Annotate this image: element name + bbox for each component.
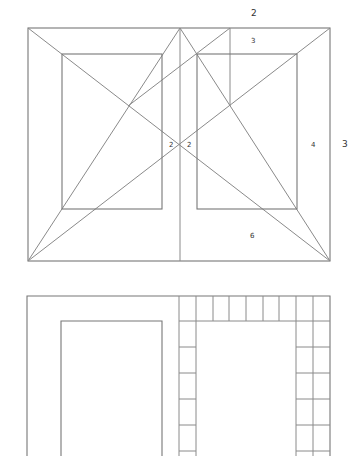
left-text-block-bottom: [61, 321, 162, 456]
label-bottom-margin-6: 6: [250, 233, 254, 240]
label-inner-margin-right: 2: [187, 142, 191, 149]
construction-cross-line: [128, 28, 230, 106]
left-page-diagonal: [28, 28, 180, 261]
layout-canon-diagram: [0, 0, 355, 456]
top-spread-diagram: [28, 28, 330, 261]
label-outer-margin-3: 3: [342, 140, 348, 149]
label-top-margin-3: 3: [251, 38, 255, 45]
right-page-diagonal: [180, 28, 330, 261]
label-inner-margin-left: 2: [169, 142, 173, 149]
label-outer-margin-4: 4: [311, 142, 315, 149]
label-top-margin-2: 2: [251, 9, 257, 18]
bottom-spread-diagram: [27, 296, 330, 456]
